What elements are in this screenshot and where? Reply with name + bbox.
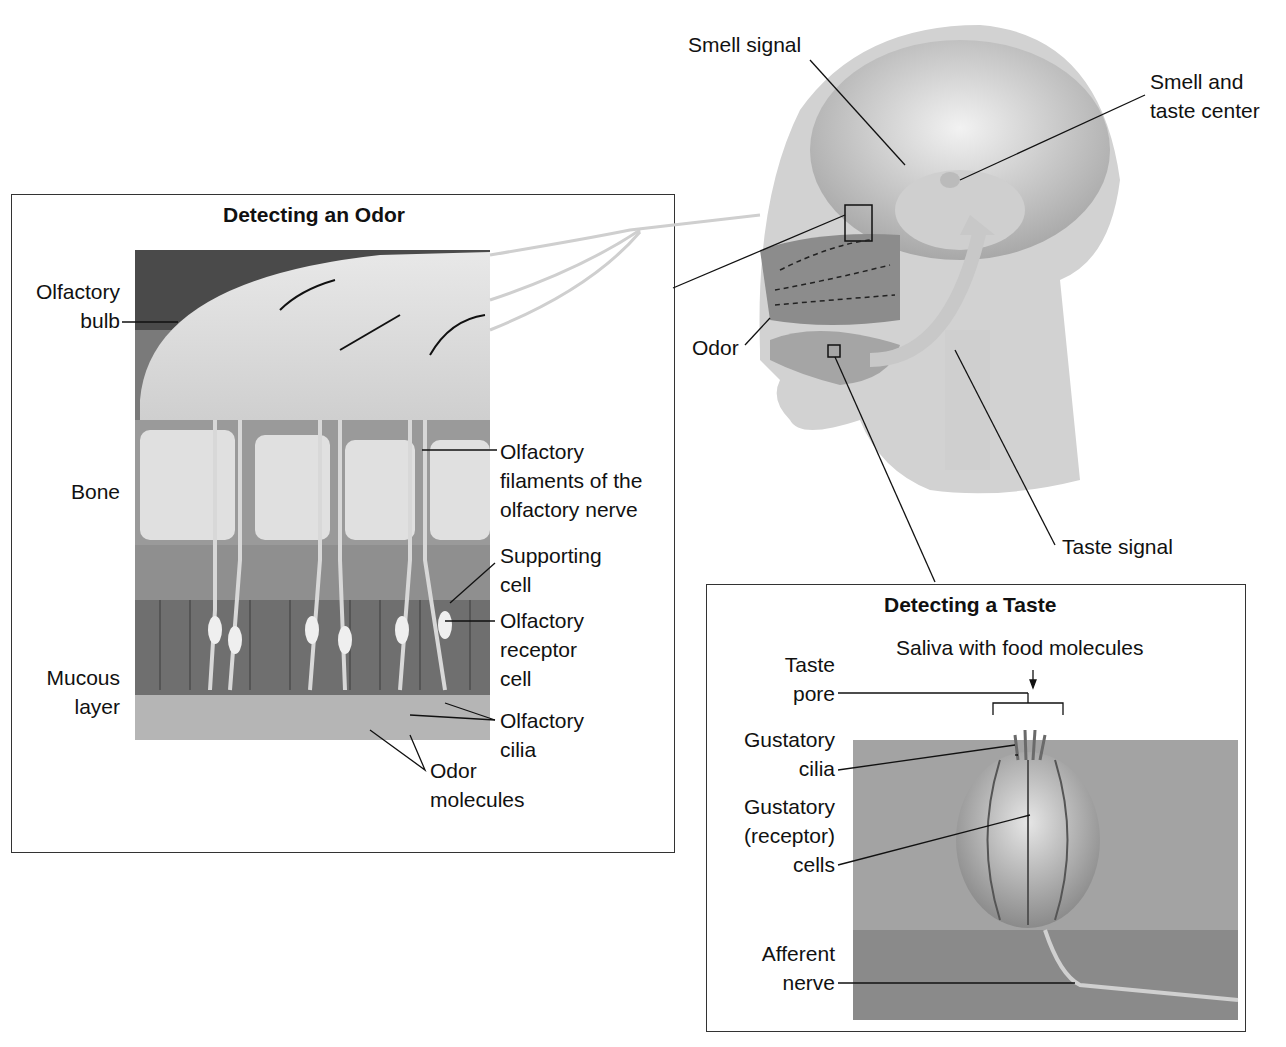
label-saliva: Saliva with food molecules [896,633,1143,662]
odor-panel-title: Detecting an Odor [223,203,405,227]
illustration [0,0,1286,1047]
taste-panel-title: Detecting a Taste [884,593,1056,617]
label-odor: Odor [692,333,739,362]
label-olfactory-filaments: Olfactory filaments of the olfactory ner… [500,437,642,524]
label-taste-pore: Taste pore [715,650,835,708]
label-smell-signal: Smell signal [688,30,801,59]
head-illustration [760,25,1121,493]
label-afferent-nerve: Afferent nerve [715,939,835,997]
taste-bud-illustration [853,730,1238,1020]
label-gustatory-cells: Gustatory (receptor) cells [715,792,835,879]
label-olfactory-receptor-cell: Olfactory receptor cell [500,606,584,693]
label-supporting-cell: Supporting cell [500,541,602,599]
label-gustatory-cilia: Gustatory cilia [715,725,835,783]
label-odor-molecules: Odor molecules [430,756,525,814]
label-olfactory-bulb: Olfactory bulb [20,277,120,335]
label-smell-taste-center: Smell and taste center [1150,67,1260,125]
label-taste-signal: Taste signal [1062,532,1173,561]
label-mucous-layer: Mucous layer [20,663,120,721]
olfactory-illustration [135,215,760,740]
label-bone: Bone [20,477,120,506]
